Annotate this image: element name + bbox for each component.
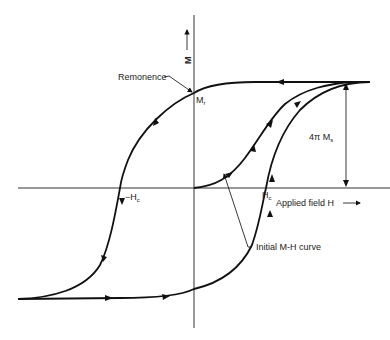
saturation-arrow-bottom <box>343 180 349 187</box>
saturation-label: 4π Ms <box>309 132 333 143</box>
arrow-bottom-1 <box>105 295 113 301</box>
h-axis-label: Applied field H <box>276 198 334 208</box>
m-axis-label: M <box>183 57 193 65</box>
hysteresis-diagram: M Remonence Mr −Hc Hc Applied field H 4π… <box>0 0 390 340</box>
remanence-leader <box>164 76 192 92</box>
neg-hc-label: −Hc <box>125 192 140 203</box>
hc-label: Hc <box>262 190 272 201</box>
arrow-top <box>276 79 284 85</box>
remanence-label: Remonence <box>118 72 167 82</box>
arrow-init-4 <box>294 101 301 108</box>
mr-label: Mr <box>196 95 206 106</box>
initial-curve-leader <box>224 174 252 247</box>
arrow-asc-1 <box>269 174 275 182</box>
initial-curve-label: Initial M-H curve <box>256 242 321 252</box>
arrow-asc-2 <box>267 210 273 217</box>
